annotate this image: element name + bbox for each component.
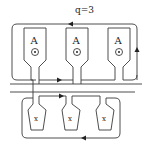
x-pole-label: x: [102, 115, 106, 123]
pass-through-lines: [33, 80, 81, 98]
bottom-connection-line: [39, 96, 100, 98]
a-pole-label: A: [114, 35, 123, 46]
top-connection-line: [39, 75, 137, 80]
a-pole-3: A: [108, 28, 130, 80]
x-pole-label: x: [34, 115, 38, 123]
x-pole-1: x: [28, 98, 46, 130]
winding-diagram: q=3 A A A x x: [0, 0, 151, 150]
x-pole-2: x: [62, 98, 80, 130]
arrow-left-top-icon: [68, 22, 73, 27]
arrow-left-bottom-icon: [81, 136, 86, 141]
a-pole-1: A: [24, 28, 46, 80]
q-label: q=3: [75, 5, 94, 15]
arrow-right-lower-icon: [59, 94, 64, 99]
x-pole-label: x: [68, 115, 72, 123]
arrow-up-right-icon: [135, 47, 140, 52]
a-pole-2: A: [66, 28, 88, 80]
x-pole-3: x: [96, 98, 114, 130]
a-pole-label: A: [72, 35, 81, 46]
arrow-right-mid-icon: [57, 78, 62, 83]
a-pole-label: A: [30, 35, 39, 46]
